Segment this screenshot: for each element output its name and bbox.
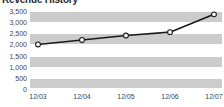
x-axis-tick-label: 12/06 (161, 93, 179, 101)
y-axis-tick-label: 3,500 (0, 8, 27, 15)
y-axis-tick-label: 1,500 (0, 52, 27, 59)
plot-area (30, 11, 222, 89)
x-axis-tick-label: 12/04 (73, 93, 91, 101)
revenue-series (30, 11, 222, 89)
data-point-marker[interactable] (212, 12, 217, 17)
x-axis-tick-label: 12/07 (205, 93, 223, 101)
y-axis-tick-label: 500 (0, 74, 27, 81)
data-point-marker[interactable] (168, 30, 173, 35)
y-axis-tick-label: 3,000 (0, 19, 27, 26)
data-point-marker[interactable] (80, 38, 85, 43)
data-point-marker[interactable] (124, 33, 129, 38)
y-axis-tick-label: 0 (0, 86, 27, 93)
x-axis: 12/0312/0412/0512/0612/07 (30, 93, 222, 105)
revenue-history-chart: Revenue History 05001,0001,5002,0002,500… (0, 0, 224, 107)
y-axis-tick-label: 2,000 (0, 41, 27, 48)
series-line (38, 14, 214, 44)
y-axis: 05001,0001,5002,0002,5003,0003,500 (0, 11, 27, 89)
x-axis-tick-label: 12/03 (29, 93, 47, 101)
y-axis-tick-label: 1,000 (0, 63, 27, 70)
y-axis-tick-label: 2,500 (0, 30, 27, 37)
data-point-marker[interactable] (36, 42, 41, 47)
x-axis-tick-label: 12/05 (117, 93, 135, 101)
chart-title: Revenue History (2, 0, 78, 5)
